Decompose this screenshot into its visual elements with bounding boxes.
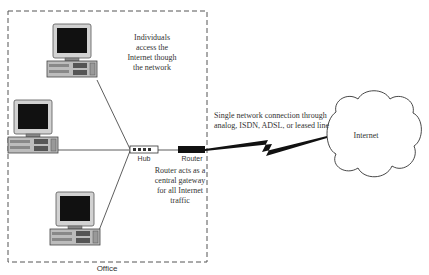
svg-text:the network: the network	[133, 63, 171, 72]
lightning-link-icon	[205, 136, 327, 156]
hub-label: Hub	[138, 155, 151, 162]
svg-text:access the: access the	[136, 43, 169, 52]
internet-label: Internet	[354, 131, 380, 140]
router-icon[interactable]	[178, 146, 205, 153]
link-top-to-hub	[97, 80, 130, 149]
individuals-annotation: Individuals access the Internet though t…	[127, 33, 176, 72]
svg-text:Single network connection thro: Single network connection through	[214, 111, 327, 120]
svg-text:central gateway: central gateway	[155, 176, 205, 185]
svg-text:Router acts as a: Router acts as a	[155, 166, 206, 175]
hub-icon[interactable]	[130, 146, 158, 153]
desktop-computer-icon[interactable]	[50, 192, 100, 245]
office-label: Office	[97, 264, 118, 273]
network-diagram: Hub Router Internet Individuals access t…	[0, 0, 429, 275]
desktop-computer-icon[interactable]	[8, 100, 58, 153]
svg-text:for all Internet: for all Internet	[157, 186, 204, 195]
svg-text:Internet though: Internet though	[127, 53, 176, 62]
svg-text:traffic: traffic	[170, 196, 190, 205]
router-gateway-annotation: Router acts as a central gateway for all…	[155, 166, 206, 205]
svg-text:analog, ISDN, ADSL, or leased: analog, ISDN, ADSL, or leased line	[214, 121, 330, 130]
desktop-computer-icon[interactable]	[47, 24, 97, 77]
link-bottom-to-hub	[98, 151, 130, 233]
connection-annotation: Single network connection through analog…	[214, 111, 330, 130]
svg-text:Individuals: Individuals	[134, 33, 170, 42]
router-label: Router	[181, 155, 203, 162]
